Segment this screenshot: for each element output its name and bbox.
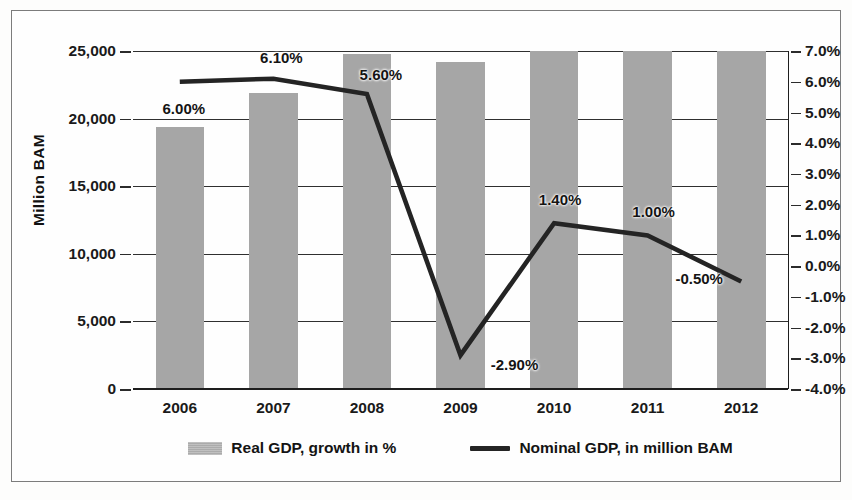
line-point-label: 5.60% <box>360 66 403 83</box>
plot-area: 6.00%6.10%5.60%-2.90%1.40%1.00%-0.50% 05… <box>133 51 788 389</box>
y-axis-right-tick-label: -2.0% <box>788 319 846 337</box>
y-axis-left-tick-label: 20,000 <box>23 110 133 128</box>
x-axis-tick-label: 2006 <box>163 399 197 417</box>
y-axis-right-tick-label: 2.0% <box>788 196 840 214</box>
line-swatch-icon <box>470 446 510 451</box>
legend-label-nominal-gdp: Nominal GDP, in million BAM <box>519 439 732 457</box>
line-point-label: 1.40% <box>539 191 582 208</box>
line-point-label: -0.50% <box>675 269 723 286</box>
y-axis-right-tick-label: -4.0% <box>788 380 846 398</box>
y-axis-right-tick-label: -3.0% <box>788 349 846 367</box>
bar-swatch-icon <box>188 442 222 455</box>
y-axis-right-tick-label: 7.0% <box>788 42 840 60</box>
legend-label-real-gdp: Real GDP, growth in % <box>231 439 396 457</box>
y-axis-right-line <box>788 51 790 389</box>
x-axis-tick-label: 2008 <box>350 399 384 417</box>
x-axis-line <box>133 388 788 390</box>
y-axis-right-tick-label: 4.0% <box>788 134 840 152</box>
y-axis-left-tick-label: 10,000 <box>23 245 133 263</box>
x-axis-tick-label: 2012 <box>724 399 758 417</box>
x-axis-tick-label: 2009 <box>443 399 477 417</box>
y-axis-right-tick-label: -1.0% <box>788 288 846 306</box>
line-point-label: 1.00% <box>632 203 675 220</box>
y-axis-right-tick-label: 3.0% <box>788 165 840 183</box>
line-point-label: 6.00% <box>163 99 206 116</box>
x-axis-tick-label: 2011 <box>631 399 665 417</box>
x-axis-tick-label: 2007 <box>256 399 290 417</box>
legend-item-nominal-gdp: Nominal GDP, in million BAM <box>470 439 732 457</box>
line-series <box>133 51 788 389</box>
line-point-label: 6.10% <box>260 48 303 65</box>
legend-item-real-gdp: Real GDP, growth in % <box>188 439 396 457</box>
y-axis-right-tick-label: 0.0% <box>788 257 840 275</box>
y-axis-right-tick-label: 5.0% <box>788 104 840 122</box>
chart-figure: Million BAM 6.00%6.10%5.60%-2.90%1.40%1.… <box>0 0 852 500</box>
y-axis-left-tick-label: 25,000 <box>23 42 133 60</box>
y-axis-left-tick-label: 5,000 <box>23 312 133 330</box>
y-axis-right-tick-label: 6.0% <box>788 73 840 91</box>
chart-legend: Real GDP, growth in % Nominal GDP, in mi… <box>133 439 788 457</box>
y-axis-left-tick-label: 0 <box>23 380 133 398</box>
x-axis-tick-label: 2010 <box>537 399 571 417</box>
line-point-label: -2.90% <box>491 356 539 373</box>
y-axis-right-tick-label: 1.0% <box>788 226 840 244</box>
y-axis-left-tick-label: 15,000 <box>23 177 133 195</box>
chart-frame: Million BAM 6.00%6.10%5.60%-2.90%1.40%1.… <box>11 10 841 482</box>
